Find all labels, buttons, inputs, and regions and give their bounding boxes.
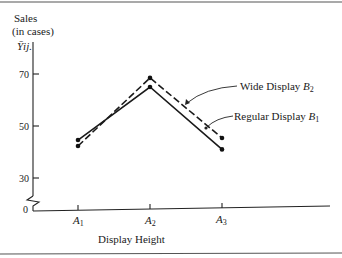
bottom-rule [0, 253, 342, 254]
data-point-marker [148, 85, 153, 90]
y-tick-label: 50 [19, 121, 29, 132]
series-layer [76, 76, 225, 152]
wide-display-leader-arrow [187, 86, 237, 103]
data-point-marker [148, 76, 153, 81]
regular-display-leader-arrow [207, 116, 233, 127]
y-tick-label: 0 [23, 204, 28, 215]
x-axis-label: Display Height [98, 233, 165, 245]
y-axis-label-line2: (in cases) [12, 25, 54, 38]
wide-display-label: Wide Display B2 [240, 80, 314, 94]
data-point-marker [76, 144, 81, 149]
y-tick-label: 30 [19, 173, 29, 184]
wide-display-arrowhead-icon [185, 99, 190, 105]
y-tick-label: 70 [19, 69, 29, 80]
y-axis [27, 42, 330, 211]
data-point-marker [220, 136, 225, 141]
x-tick-label: A1 [72, 214, 84, 228]
x-tick-label: A3 [215, 213, 227, 227]
data-point-marker [220, 147, 225, 152]
y-axis-label-line1: Sales [14, 12, 37, 24]
regular-display-leader-dot-icon [204, 126, 207, 129]
data-point-marker [76, 138, 81, 143]
regular-display-line [78, 87, 222, 149]
regular-display-label: Regular Display B1 [234, 110, 319, 124]
x-tick-label: A2 [144, 214, 156, 228]
axis-break-icon [27, 196, 39, 211]
interaction-plot: Sales (in cases) Ȳij. 70 50 30 0 A1 A2 A… [0, 0, 342, 258]
y-axis-symbol: Ȳij. [17, 40, 32, 52]
